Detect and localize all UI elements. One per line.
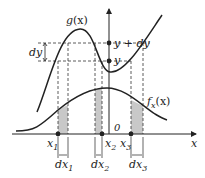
point-y-plus-dy (107, 41, 112, 46)
f-label: fx(x) (146, 95, 170, 110)
strip-dx3 (131, 100, 143, 134)
origin-label: 0 (114, 122, 121, 133)
shaded-strips (58, 88, 143, 134)
dx2-label: dx2 (91, 158, 109, 173)
point-x2 (100, 132, 105, 137)
point-x1 (56, 132, 61, 137)
x2-label: x2 (105, 137, 116, 152)
g-label: g(x) (66, 14, 88, 27)
y-label: y (113, 54, 121, 67)
x3-label: x3 (120, 137, 131, 152)
y-plus-dy-label: y + dy (113, 37, 150, 50)
x-axis-label: x (191, 137, 198, 150)
point-y (107, 59, 112, 64)
transformation-diagram: g(x) fx(x) y + dy y dy 0 x x1 x2 x3 dx1 … (0, 0, 205, 178)
point-x3 (129, 132, 134, 137)
dy-label: dy (29, 46, 43, 59)
strip-dx2 (95, 88, 102, 134)
x1-label: x1 (47, 137, 58, 152)
dy-bracket (43, 43, 47, 61)
dx1-label: dx1 (55, 158, 73, 173)
dx3-label: dx3 (129, 158, 147, 173)
